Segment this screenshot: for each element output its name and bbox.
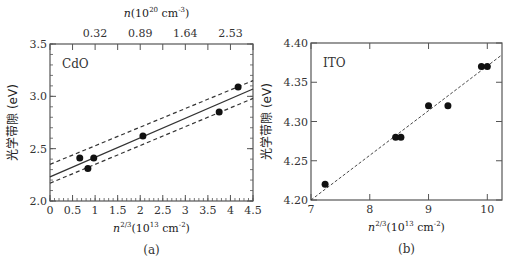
data-point: [484, 63, 491, 70]
data-point: [235, 83, 242, 90]
y-tick-label: 4.30: [284, 116, 309, 129]
x-axis-title-sup: 2/3: [375, 220, 386, 228]
y-axis-title: 光学带隙 (eV): [5, 84, 20, 161]
chart-panel-b: 789104.204.254.304.354.40ITOn2/3(1013 cm…: [259, 37, 502, 256]
x-tick-label: 10: [480, 203, 494, 216]
y-tick-label: 4.40: [284, 37, 309, 50]
x-tick-label: 9: [425, 203, 432, 216]
y-tick-label: 4.35: [284, 76, 309, 89]
data-point: [90, 155, 97, 162]
y-tick-label: 3.0: [30, 90, 48, 103]
y-axis-title: 光学带隙 (eV): [259, 83, 274, 160]
y-tick-label: 4.25: [284, 155, 309, 168]
x-tick-label: 1.5: [109, 204, 127, 217]
x-tick-label: 1: [92, 204, 99, 217]
top-x-axis-title-var: n: [124, 7, 131, 20]
y-tick-label: 2.0: [30, 195, 48, 208]
top-x-tick-label: 0.89: [128, 27, 153, 40]
y-tick-label: 2.5: [30, 143, 48, 156]
x-axis-title-text: (10: [386, 221, 404, 234]
x-tick-label: 2.5: [154, 204, 172, 217]
panel-caption: (b): [398, 242, 415, 256]
x-tick-label: 8: [366, 203, 373, 216]
data-point: [444, 102, 451, 109]
fit-line: [50, 89, 253, 177]
top-x-axis-title-text: (10: [131, 7, 149, 20]
x-tick-label: 3: [182, 204, 189, 217]
x-tick-label: 3.5: [199, 204, 217, 217]
top-x-axis-title-text: ): [185, 7, 189, 20]
data-point: [76, 155, 83, 162]
x-axis-title-text: (10: [131, 222, 149, 235]
material-label: ITO: [323, 56, 346, 70]
data-point: [84, 165, 91, 172]
top-x-axis-title-sup: -3: [178, 6, 185, 14]
data-point: [425, 102, 432, 109]
x-axis-title-sup: 13: [405, 220, 414, 228]
data-point: [216, 109, 223, 116]
x-axis-title-text: ): [441, 221, 445, 234]
x-axis-title-text: cm: [414, 221, 435, 234]
data-point: [397, 134, 404, 141]
x-tick-label: 4.5: [244, 204, 262, 217]
x-axis-title-var: n: [368, 221, 375, 234]
x-axis-title-text: ): [186, 222, 190, 235]
top-x-tick-label: 1.64: [173, 27, 198, 40]
x-tick-label: 2: [137, 204, 144, 217]
dashed-line: [311, 55, 502, 200]
x-axis-title-sup: -2: [179, 221, 186, 229]
x-tick-label: 0: [47, 204, 54, 217]
top-x-axis-title: n(1020 cm-3): [124, 6, 190, 20]
x-axis-title-sup: -2: [434, 220, 441, 228]
x-axis-title-sup: 13: [150, 221, 159, 229]
x-axis-title-var: n: [113, 222, 120, 235]
top-x-axis-title-text: cm: [158, 7, 179, 20]
top-x-axis-title-sup: 20: [149, 6, 158, 14]
top-x-tick-label: 2.53: [218, 27, 243, 40]
x-tick-label: 7: [308, 203, 315, 216]
panel-caption: (a): [143, 243, 160, 257]
y-tick-label: 3.5: [30, 38, 48, 51]
data-point: [139, 133, 146, 140]
x-axis-title: n2/3(1013 cm-2): [368, 220, 445, 234]
x-axis-title-text: cm: [159, 222, 180, 235]
figure: 00.511.522.533.544.52.02.53.03.50.320.89…: [0, 0, 510, 264]
x-tick-label: 0.5: [64, 204, 82, 217]
x-tick-label: 4: [227, 204, 234, 217]
x-axis-title-sup: 2/3: [120, 221, 131, 229]
dashed-line: [50, 81, 253, 165]
x-axis-title: n2/3(1013 cm-2): [113, 221, 190, 235]
chart-panel-a: 00.511.522.533.544.52.02.53.03.50.320.89…: [5, 6, 262, 257]
top-x-tick-label: 0.32: [83, 27, 108, 40]
material-label: CdO: [62, 57, 89, 71]
data-point: [322, 181, 329, 188]
y-tick-label: 4.20: [284, 194, 309, 207]
